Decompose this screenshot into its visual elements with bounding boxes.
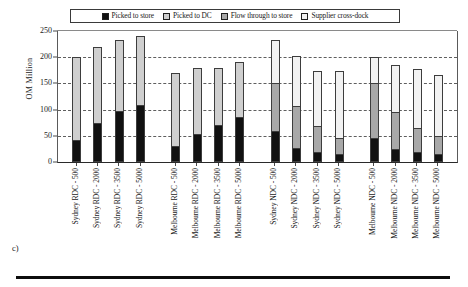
- x-tick-mark: [196, 163, 197, 166]
- x-tick-label: Sydney NDC - 500: [270, 168, 278, 225]
- bar: [313, 71, 322, 162]
- bar-segment: [272, 41, 279, 84]
- bar-segment: [336, 139, 343, 154]
- bar-segment: [371, 84, 378, 140]
- bar-segment: [172, 74, 179, 146]
- bar: [235, 62, 244, 162]
- bar: [413, 69, 422, 162]
- bar-segment: [73, 141, 80, 161]
- bar-segment: [414, 70, 421, 129]
- bar-segment: [314, 153, 321, 161]
- x-tick-label: Melbourne NDC - 2000: [391, 168, 399, 239]
- bar: [136, 36, 145, 162]
- bar-segment: [236, 118, 243, 161]
- bar-segment: [435, 76, 442, 137]
- bar-segment: [172, 147, 179, 161]
- x-tick-mark: [395, 163, 396, 166]
- legend-item-flow-through-to-store: Flow through to store: [221, 12, 293, 20]
- legend-label: Supplier cross-dock: [311, 12, 368, 20]
- legend-item-supplier-cross-dock: Supplier cross-dock: [301, 12, 368, 20]
- bar: [391, 65, 400, 162]
- bar: [271, 40, 280, 162]
- x-tick-mark: [373, 163, 374, 166]
- bar-segment: [314, 127, 321, 153]
- legend-label: Picked to store: [112, 12, 154, 20]
- x-tick-mark: [274, 163, 275, 166]
- bar-segment: [94, 48, 101, 124]
- bar-segment: [116, 112, 123, 161]
- x-tick-label: Melbourne RDC - 5000: [235, 168, 243, 238]
- x-tick-mark: [118, 163, 119, 166]
- bar-segment: [392, 150, 399, 161]
- bar-segment: [236, 63, 243, 118]
- x-tick-mark: [175, 163, 176, 166]
- bar-segment: [414, 129, 421, 153]
- y-tick-label: 250: [26, 27, 52, 35]
- legend-swatch-icon: [163, 13, 170, 20]
- legend-item-picked-to-store: Picked to store: [102, 12, 154, 20]
- x-tick-mark: [76, 163, 77, 166]
- y-tick-label: 0: [26, 158, 52, 166]
- x-axis: Sydney RDC - 500Sydney RDC - 2000Sydney …: [57, 163, 456, 263]
- x-tick-mark: [295, 163, 296, 166]
- figure-panel-c: Picked to store Picked to DC Flow throug…: [0, 0, 468, 287]
- bar-segment: [194, 135, 201, 161]
- x-tick-mark: [97, 163, 98, 166]
- bar: [115, 40, 124, 162]
- x-tick-label: Sydney RDC - 500: [72, 168, 80, 224]
- bar-segment: [371, 58, 378, 84]
- x-tick-mark: [437, 163, 438, 166]
- bar: [93, 47, 102, 162]
- x-tick-label: Melbourne NDC - 3500: [412, 168, 420, 239]
- bar-segment: [94, 124, 101, 161]
- bar: [193, 68, 202, 162]
- bar-segment: [435, 137, 442, 154]
- x-tick-label: Melbourne RDC - 3500: [214, 168, 222, 238]
- legend-swatch-icon: [301, 13, 308, 20]
- bar: [72, 57, 81, 162]
- bar-segment: [293, 57, 300, 107]
- bar-segment: [194, 69, 201, 135]
- bar: [370, 57, 379, 162]
- bar-segment: [314, 72, 321, 126]
- x-tick-label: Sydney RDC - 3500: [114, 168, 122, 228]
- x-tick-mark: [416, 163, 417, 166]
- bar-segment: [272, 84, 279, 131]
- bar-segment: [293, 107, 300, 149]
- bar-segment: [137, 106, 144, 161]
- legend-label: Picked to DC: [173, 12, 212, 20]
- y-tick-label: 50: [26, 132, 52, 140]
- bar-segment: [336, 72, 343, 140]
- x-tick-label: Melbourne NDC - 5000: [433, 168, 441, 239]
- x-tick-label: Melbourne NDC - 500: [369, 168, 377, 235]
- bar-segment: [336, 155, 343, 161]
- bar-segment: [272, 132, 279, 161]
- bar-segment: [414, 153, 421, 161]
- x-tick-label: Sydney NDC - 5000: [334, 168, 342, 229]
- bottom-rule: [16, 276, 450, 279]
- x-tick-label: Sydney NDC - 3500: [313, 168, 321, 229]
- x-tick-mark: [338, 163, 339, 166]
- bar: [335, 71, 344, 162]
- bar-segment: [371, 139, 378, 161]
- legend-swatch-icon: [102, 13, 109, 20]
- bar: [292, 56, 301, 162]
- x-tick-label: Sydney NDC - 2000: [291, 168, 299, 229]
- y-axis-title: OM Million: [25, 44, 34, 114]
- bar-segment: [293, 149, 300, 161]
- bar-segment: [215, 126, 222, 161]
- chart-legend: Picked to store Picked to DC Flow throug…: [70, 9, 400, 23]
- bar-segment: [116, 41, 123, 112]
- plot-area: [57, 31, 458, 163]
- x-tick-label: Sydney RDC - 5000: [136, 168, 144, 228]
- bar-segment: [392, 113, 399, 150]
- legend-item-picked-to-dc: Picked to DC: [163, 12, 212, 20]
- bar-segment: [73, 58, 80, 141]
- legend-label: Flow through to store: [231, 12, 293, 20]
- legend-swatch-icon: [221, 13, 228, 20]
- x-tick-mark: [218, 163, 219, 166]
- panel-letter: c): [12, 243, 19, 253]
- x-tick-label: Sydney RDC - 2000: [93, 168, 101, 228]
- bar: [171, 73, 180, 162]
- bar-segment: [215, 69, 222, 126]
